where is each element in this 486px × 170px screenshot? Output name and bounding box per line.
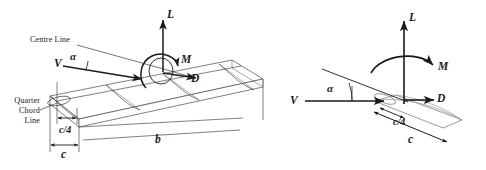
left-velocity-vector [63,66,142,79]
right-airfoil-body [373,91,462,128]
quarter-chord-label-line3: Line [0,117,40,126]
left-chord-dim-label: c [61,148,66,160]
right-chord-reference-line [322,69,408,102]
right-quarter-chord-dim-label: c/4 [393,117,405,128]
b-lower-line [83,130,240,140]
quarter-chord-label-line2: Chord [0,107,40,116]
left-quarter-chord-dim-label: c/4 [59,125,71,136]
left-lift-label: L [167,8,174,20]
right-alpha-arc [349,83,352,101]
right-moment-label: M [438,60,448,72]
right-moment-arc [371,56,433,73]
left-moment-label: M [181,53,191,65]
left-drag-label: D [191,72,199,84]
centre-line-leader [77,45,160,68]
left-wing-body [50,60,263,127]
aerodynamics-figure: Centre Line Quarter Chord Line V α L M D… [0,0,486,170]
centre-line-label: Centre Line [30,36,70,45]
left-alpha-arc [86,61,88,69]
quarter-chord-label-line1: Quarter [0,97,40,106]
left-span-dim-label: b [155,133,161,145]
right-alpha-label: α [327,83,333,95]
right-lift-label: L [409,11,416,23]
left-alpha-label: α [70,51,76,63]
right-chord-dim-label: c [408,133,413,145]
left-velocity-label: V [54,57,62,69]
right-drag-label: D [437,92,445,104]
right-velocity-label: V [290,94,298,106]
